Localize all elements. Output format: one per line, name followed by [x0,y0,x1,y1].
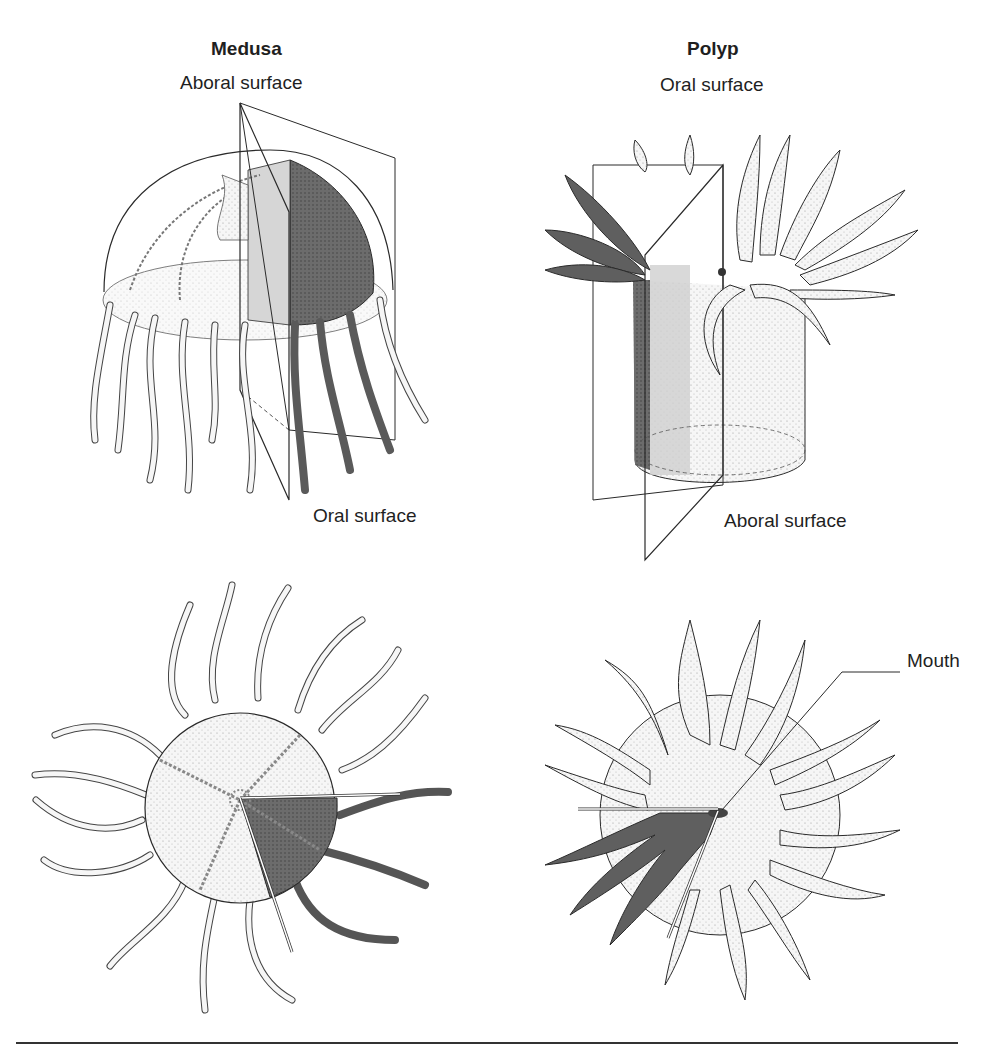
medusa-side-view [94,103,425,500]
polyp-side-view [545,135,918,560]
medusa-top-view [35,585,448,1010]
polyp-top-view [545,620,900,1000]
